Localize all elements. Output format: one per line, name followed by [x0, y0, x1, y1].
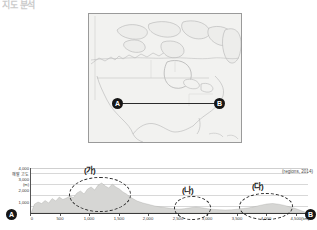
question-header: 지도 분석 — [2, 0, 35, 11]
x-tick-label-1000: 1,000 — [84, 217, 94, 221]
annotation-ellipse-da — [239, 193, 293, 220]
north-america-map-svg — [89, 14, 241, 142]
chart-endpoint-a-marker: A — [6, 209, 17, 220]
chart-source-credit: (regions, 2014) — [282, 169, 313, 174]
screenshot-root: 지도 분석 — [0, 0, 317, 230]
y-tick-4000: 4,000 — [19, 167, 29, 171]
chart-y-axis: 4,000 3,000 2,000 1,000 해발 고도 (m) — [0, 163, 29, 214]
map-point-b-marker: B — [214, 98, 225, 109]
annotation-ellipse-na — [174, 196, 211, 220]
annotation-label-na: (나) — [182, 184, 193, 195]
annotation-label-da: (다) — [252, 180, 263, 191]
chart-endpoint-b-marker: B — [305, 209, 316, 220]
x-tick-label-0: 0 — [31, 217, 33, 221]
elevation-profile-chart: 4,000 3,000 2,000 1,000 해발 고도 (m) — [0, 163, 317, 230]
x-tick-label-3500: 3,500 — [232, 217, 242, 221]
map-transect-line — [118, 103, 219, 104]
annotation-label-ga: (가) — [84, 164, 95, 175]
map-panel — [88, 13, 242, 143]
map-point-a-marker: A — [112, 98, 123, 109]
x-tick-label-2000: 2,000 — [143, 217, 153, 221]
x-tick-label-500: 500 — [57, 217, 64, 221]
y-axis-title: 해발 고도 — [0, 173, 29, 177]
x-tick-label-1500: 1,500 — [114, 217, 124, 221]
y-tick-1000: 1,000 — [19, 201, 29, 205]
y-tick-2000: 2,000 — [19, 189, 29, 193]
y-axis-unit: (m) — [0, 183, 29, 187]
annotation-ellipse-ga — [69, 177, 131, 212]
